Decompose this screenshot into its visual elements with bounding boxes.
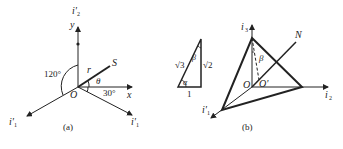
arc-theta — [88, 81, 89, 87]
axis-left-sub-b: 1 — [207, 110, 210, 116]
diagram-canvas: i' 2 y x i' 1 i' 1 O S r θ 120° 30° (a) … — [0, 0, 343, 149]
hyp-label: √3 — [175, 60, 185, 70]
beta-label: β — [191, 53, 196, 62]
y-label: y — [69, 19, 75, 30]
angle-120-label: 120° — [44, 69, 62, 79]
axis-right-sub-b: 2 — [329, 95, 332, 101]
alpha-label: α — [183, 78, 188, 87]
axis-top-label: i — [241, 21, 244, 32]
theta-label: θ — [96, 76, 101, 86]
axis-right-label-b: i — [325, 89, 328, 100]
figure-a: i' 2 y x i' 1 i' 1 O S r θ 120° 30° (a) — [9, 5, 139, 132]
angle-30-label: 30° — [103, 88, 116, 98]
axis-right-sub: 1 — [136, 122, 139, 128]
radius-label: r — [87, 64, 91, 75]
origin-prime-label: O' — [259, 78, 269, 89]
bottom-side-label: 1 — [187, 89, 192, 99]
axis-top-sub: 3 — [245, 27, 248, 33]
origin-label: O — [70, 89, 77, 100]
arc-30 — [87, 87, 88, 92]
figure-b: i 3 i 2 i' 1 O O' N β (b) — [202, 21, 332, 132]
vector-s — [78, 66, 110, 87]
right-side-label: √2 — [203, 60, 212, 70]
vector-s-label: S — [112, 57, 117, 68]
right-triangle: √3 √2 1 α β — [175, 39, 212, 99]
caption-b: (b) — [242, 122, 253, 132]
caption-a: (a) — [63, 122, 73, 132]
x-label: x — [126, 89, 132, 100]
normal-label: N — [294, 29, 303, 40]
y-axis-dot — [76, 42, 79, 45]
origin-label-b: O — [243, 79, 250, 90]
axis-up-sub: 2 — [77, 11, 80, 17]
beta-label-b: β — [258, 53, 264, 63]
axis-left-sub: 1 — [14, 122, 17, 128]
